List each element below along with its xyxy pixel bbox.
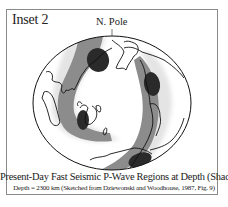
caption-subtitle: Depth = 2300 km (Sketched from Dziewonsk… [0, 184, 228, 192]
fast-region-core-west [77, 110, 89, 130]
caption-title: Present-Day Fast Seismic P-Wave Regions … [0, 171, 228, 182]
